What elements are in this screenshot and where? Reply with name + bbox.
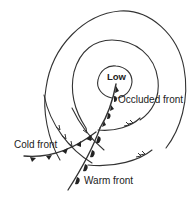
- warm-front-label: Warm front: [84, 176, 133, 186]
- cold-front-label: Cold front: [14, 140, 57, 150]
- cyclone-diagram: Low Occluded front Cold front Warm front: [0, 0, 192, 201]
- low-pressure-label: Low: [107, 72, 126, 82]
- flow-arrowheads: [56, 120, 145, 157]
- occluded-front-line: [100, 84, 116, 128]
- warm-air-flow-lower: [88, 150, 152, 166]
- occluded-front-label: Occluded front: [118, 95, 183, 105]
